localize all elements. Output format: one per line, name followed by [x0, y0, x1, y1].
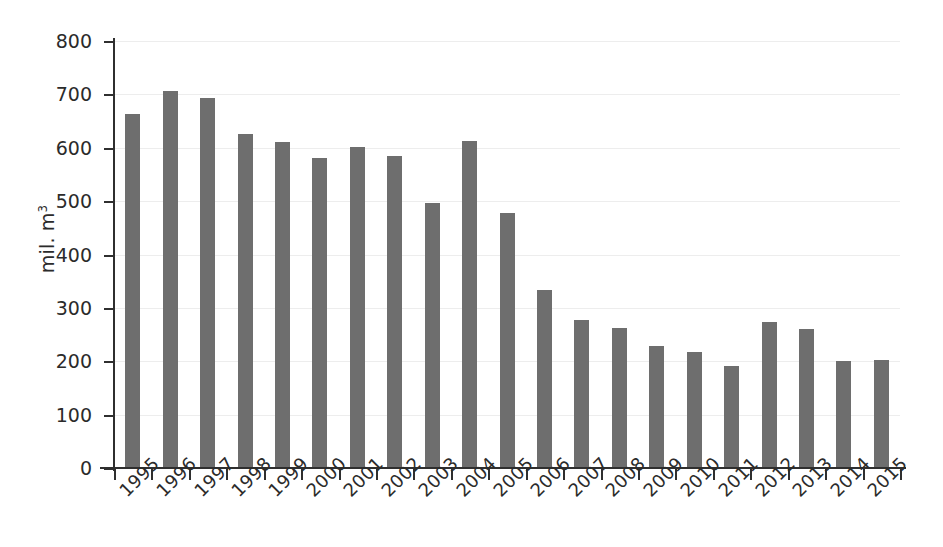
gridline [114, 148, 900, 149]
y-axis-line [113, 38, 115, 471]
bar-chart: mil. m3 0100200300400500600700800 199519… [0, 0, 943, 547]
bar[interactable] [762, 322, 777, 468]
bar[interactable] [799, 329, 814, 468]
bar[interactable] [574, 320, 589, 468]
x-axis-tick [114, 469, 116, 480]
bar[interactable] [125, 114, 140, 468]
y-axis-tick-label: 0 [30, 457, 92, 479]
bar[interactable] [836, 361, 851, 468]
y-axis-tick-label: 400 [30, 244, 92, 266]
y-axis-tick-label: 500 [30, 190, 92, 212]
bar[interactable] [238, 134, 253, 468]
bar[interactable] [200, 98, 215, 468]
y-axis-tick-label: 200 [30, 350, 92, 372]
bar[interactable] [612, 328, 627, 468]
plot-area [114, 41, 900, 468]
bar[interactable] [350, 147, 365, 468]
bar[interactable] [649, 346, 664, 468]
bar[interactable] [312, 158, 327, 468]
bar[interactable] [275, 142, 290, 468]
bar[interactable] [724, 366, 739, 468]
bar[interactable] [687, 352, 702, 468]
y-axis-tick-label: 700 [30, 83, 92, 105]
bar[interactable] [425, 203, 440, 468]
bar[interactable] [874, 360, 889, 468]
bar[interactable] [500, 213, 515, 468]
y-axis-tick-label: 300 [30, 297, 92, 319]
gridline [114, 94, 900, 95]
gridline [114, 41, 900, 42]
bar[interactable] [387, 156, 402, 468]
y-axis-tick-label: 800 [30, 30, 92, 52]
gridline [114, 201, 900, 202]
y-axis-tick-label: 100 [30, 404, 92, 426]
bar[interactable] [462, 141, 477, 468]
y-axis-tick-label: 600 [30, 137, 92, 159]
bar[interactable] [537, 290, 552, 468]
bar[interactable] [163, 91, 178, 468]
